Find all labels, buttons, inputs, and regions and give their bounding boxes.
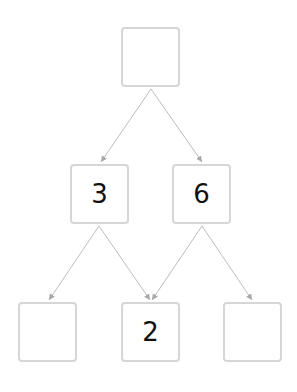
- node-bottom-right[interactable]: [223, 302, 282, 362]
- node-mid-right[interactable]: 6: [172, 164, 231, 224]
- edge-top-to-mid-left: [101, 89, 151, 162]
- edge-mid-left-to-bottom-middle: [99, 226, 150, 300]
- edge-mid-right-to-bottom-right: [202, 226, 252, 300]
- edge-mid-left-to-bottom-left: [49, 226, 99, 300]
- node-bottom-middle[interactable]: 2: [121, 302, 180, 362]
- node-mid-left[interactable]: 3: [70, 164, 129, 224]
- edge-mid-right-to-bottom-middle: [152, 226, 202, 300]
- edge-top-to-mid-right: [151, 89, 202, 162]
- node-bottom-left[interactable]: [18, 302, 77, 362]
- node-top[interactable]: [121, 27, 180, 87]
